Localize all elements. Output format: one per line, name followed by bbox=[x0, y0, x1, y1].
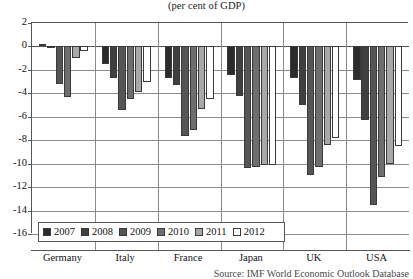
y-tick-mark bbox=[28, 46, 32, 47]
y-axis-tick-label: -4 bbox=[0, 87, 27, 98]
bar bbox=[198, 46, 205, 108]
bar bbox=[269, 46, 276, 164]
y-tick-mark bbox=[28, 93, 32, 94]
group-separator bbox=[158, 23, 159, 251]
chart-subtitle: (per cent of GDP) bbox=[0, 0, 413, 11]
bar bbox=[307, 46, 314, 175]
bar bbox=[370, 46, 377, 204]
bar bbox=[135, 46, 142, 92]
y-axis-tick-label: 2 bbox=[0, 17, 27, 28]
legend-label: 2012 bbox=[244, 227, 265, 238]
legend-swatch-icon bbox=[81, 228, 89, 236]
x-axis-category-label: Japan bbox=[220, 253, 283, 264]
x-axis-category-label: Italy bbox=[94, 253, 157, 264]
y-tick-mark bbox=[28, 211, 32, 212]
bar bbox=[102, 46, 109, 64]
legend-swatch-icon bbox=[119, 228, 127, 236]
bar bbox=[361, 46, 368, 120]
bar bbox=[236, 46, 243, 95]
legend-swatch-icon bbox=[157, 228, 165, 236]
y-axis-tick-label: -6 bbox=[0, 111, 27, 122]
y-tick-mark bbox=[28, 23, 32, 24]
group-separator bbox=[346, 23, 347, 251]
bar bbox=[353, 46, 360, 80]
legend-item[interactable]: 2008 bbox=[81, 227, 113, 238]
bar bbox=[190, 46, 197, 129]
bar bbox=[173, 46, 180, 85]
chart-figure: (per cent of GDP) 20-2-4-6-8-10-12-14-16… bbox=[0, 0, 413, 279]
bar bbox=[39, 44, 46, 46]
bar bbox=[110, 46, 117, 78]
bar bbox=[72, 46, 79, 58]
y-tick-mark bbox=[28, 164, 32, 165]
bar bbox=[80, 46, 87, 51]
y-axis-tick-label: -16 bbox=[0, 228, 27, 239]
legend-label: 2010 bbox=[168, 227, 189, 238]
bar bbox=[261, 46, 268, 164]
bar bbox=[47, 46, 54, 48]
legend-label: 2008 bbox=[92, 227, 113, 238]
y-tick-mark bbox=[28, 117, 32, 118]
bar bbox=[386, 46, 393, 163]
bar bbox=[206, 46, 213, 99]
bar bbox=[315, 46, 322, 167]
legend-item[interactable]: 2009 bbox=[119, 227, 151, 238]
source-note: Source: IMF World Economic Outlook Datab… bbox=[0, 268, 413, 279]
bar bbox=[299, 46, 306, 105]
x-axis-line bbox=[31, 250, 410, 251]
legend-item[interactable]: 2007 bbox=[43, 227, 75, 238]
plot-area bbox=[31, 22, 408, 233]
legend-swatch-icon bbox=[195, 228, 203, 236]
bar bbox=[244, 46, 251, 168]
bar bbox=[165, 46, 172, 78]
legend-label: 2009 bbox=[130, 227, 151, 238]
y-tick-mark bbox=[28, 70, 32, 71]
legend-label: 2007 bbox=[54, 227, 75, 238]
y-tick-mark bbox=[28, 140, 32, 141]
y-tick-mark bbox=[28, 187, 32, 188]
group-separator bbox=[221, 23, 222, 251]
y-axis-tick-label: 0 bbox=[0, 40, 27, 51]
y-axis-tick-label: -2 bbox=[0, 64, 27, 75]
bar bbox=[290, 46, 297, 78]
legend-swatch-icon bbox=[233, 228, 241, 236]
bar bbox=[227, 46, 234, 74]
bar bbox=[181, 46, 188, 135]
y-axis-tick-label: -12 bbox=[0, 181, 27, 192]
bar bbox=[378, 46, 385, 176]
y-axis-tick-label: -14 bbox=[0, 205, 27, 216]
x-axis-category-label: UK bbox=[282, 253, 345, 264]
bar bbox=[56, 46, 63, 84]
bar bbox=[118, 46, 125, 109]
y-axis-tick-label: -8 bbox=[0, 134, 27, 145]
bar bbox=[332, 46, 339, 137]
legend-item[interactable]: 2010 bbox=[157, 227, 189, 238]
x-axis-category-label: Germany bbox=[31, 253, 94, 264]
legend-swatch-icon bbox=[43, 228, 51, 236]
group-separator bbox=[283, 23, 284, 251]
chart-legend: 200720082009201020112012 bbox=[38, 222, 285, 242]
bar bbox=[127, 46, 134, 99]
legend-item[interactable]: 2011 bbox=[195, 227, 227, 238]
bar bbox=[64, 46, 71, 96]
y-tick-mark bbox=[28, 234, 32, 235]
bar bbox=[143, 46, 150, 81]
x-axis-category-label: USA bbox=[345, 253, 408, 264]
bar bbox=[252, 46, 259, 167]
bar bbox=[324, 46, 331, 144]
x-axis-category-label: France bbox=[157, 253, 220, 264]
group-separator bbox=[95, 23, 96, 251]
bar bbox=[395, 46, 402, 146]
legend-label: 2011 bbox=[206, 227, 227, 238]
y-axis-tick-label: -10 bbox=[0, 158, 27, 169]
legend-item[interactable]: 2012 bbox=[233, 227, 265, 238]
